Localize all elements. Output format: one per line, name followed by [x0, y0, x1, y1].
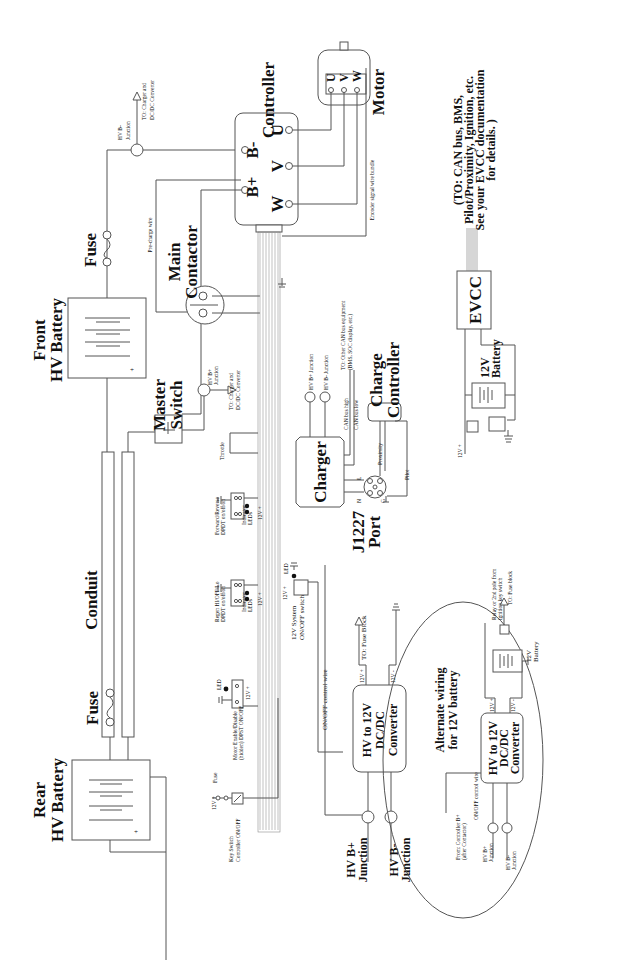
battery-label: Battery — [489, 339, 503, 378]
pin-label: G — [380, 499, 386, 503]
front-hv-battery: + Front HV Battery — [30, 297, 146, 382]
rear-battery-label-2: HV Battery — [48, 757, 67, 842]
switch-label: DPDT on/off/on — [220, 499, 226, 535]
master-switch-label-2: Switch — [167, 380, 186, 430]
voltage-label: 12V + — [282, 586, 288, 600]
control-wire-label: ON/OFF control wire — [473, 772, 479, 820]
motor-label: Motor — [369, 68, 388, 115]
motor: U V W Motor — [318, 42, 388, 115]
to-label: DC/DC Converter — [235, 370, 241, 410]
rear-battery-label-1: Rear — [30, 782, 49, 818]
dcdc-label: Converter — [508, 721, 522, 774]
contactor-label-2: Contactor — [182, 225, 201, 299]
fwd-rev-switch: Forward/Reverse DPDT on/off/on Indicator… — [214, 493, 263, 535]
terminal-w: W — [268, 196, 287, 213]
plus-sign: + — [130, 366, 134, 374]
voltage-label: 12V + — [457, 444, 463, 458]
encoder-label: Encoder signal wire bundle — [369, 159, 375, 220]
system-switch-label: 12V System — [290, 605, 298, 640]
conduit-label: Conduit — [82, 570, 101, 630]
terminal-v: V — [268, 159, 287, 172]
signal-bundle — [258, 232, 286, 832]
junction-label: HV B+ Junction — [308, 354, 314, 390]
plus-sign: + — [134, 828, 138, 836]
regen-switch: Regen HI/OFF/Lo DPDT on/off/on Indicator… — [214, 580, 263, 622]
evcc-note: for details. ) — [484, 119, 498, 180]
can-label: CAN bus high — [343, 398, 349, 430]
voltage-label: 12V + — [359, 669, 365, 683]
charger: Charger HV B+ Junction HV B- Junction CA… — [296, 300, 359, 507]
rear-hv-battery: + Rear HV Battery — [30, 757, 150, 842]
to-label: TO: Charger and — [141, 83, 147, 120]
alternate-title: Alternate wiring — [433, 668, 447, 753]
voltage-label: 12V + — [257, 506, 263, 520]
voltage-label: 12V + — [257, 592, 263, 606]
throttle: Throttle — [219, 433, 258, 460]
voltage-label: 12V - — [510, 699, 516, 712]
dcdc-label: Converter — [386, 703, 400, 756]
to-label: (BMS, SOC display, etc.) — [347, 314, 354, 370]
relay-label: ignition key switch — [497, 578, 503, 620]
led-label: LEDs — [247, 512, 253, 525]
fuse-label: Fuse — [212, 772, 218, 783]
junction-label: Junction — [511, 851, 517, 870]
to-label: DC/DC Converter — [149, 80, 155, 120]
controller: Controller B- B+ U V W — [235, 61, 298, 232]
hv-bminus-junction-top: HV B- Junction TO: Charger and DC/DC Con… — [117, 80, 155, 156]
voltage-label: 12V + — [245, 686, 251, 700]
terminal-u: U — [268, 124, 287, 136]
main-contactor: Main Contactor — [165, 225, 224, 324]
motor-enable-switch: LED 12V + Motor Enable/Disable (hidden) … — [216, 679, 258, 760]
voltage-label: 12V + — [211, 796, 217, 810]
switch-label: DPDT on/off/on — [220, 586, 226, 622]
key-switch-label: Controller ON/OFF — [235, 818, 241, 862]
fuse-label: Fuse — [83, 691, 102, 725]
master-switch: Master Switch — [150, 379, 186, 443]
motor-terminal-u: U — [324, 73, 338, 82]
motor-terminal-v: V — [337, 73, 351, 82]
front-battery-label-2: HV Battery — [47, 297, 66, 382]
junction-label: HV B- — [117, 125, 123, 140]
pilot-label: Pilot — [404, 469, 410, 480]
junction-label: Junction — [356, 837, 370, 882]
led-label: LED — [283, 563, 289, 574]
key-switch: 12V + Fuse Key Switch Controller ON/OFF — [211, 698, 278, 862]
to-label: TO: Other CAN bus equipment — [340, 300, 346, 370]
can-label: CAN bus low — [353, 400, 359, 430]
dcdc-label: HV to 12V — [360, 702, 374, 757]
alternate-title: for 12V battery — [446, 671, 460, 750]
system-onoff-switch: LED 12V + 12V System ON/OFF switch — [282, 563, 343, 752]
proximity-label: Proximity — [377, 443, 383, 465]
junction-label: Junction — [125, 121, 131, 140]
led-label: LEDs — [247, 599, 253, 612]
wiring-diagram: + Front HV Battery Fuse Conduit Master S… — [0, 0, 619, 960]
switch-label: (hidden) DPST ON/OFF — [238, 706, 245, 760]
to-label: TO: Fuse Block — [360, 615, 368, 660]
system-switch-label: ON/OFF switch — [298, 595, 306, 640]
charge-controller: Charge Controller Proximity Pilot — [367, 341, 410, 496]
to-label: TO: Charger and — [228, 373, 234, 410]
junction-label: HV B- Junction — [323, 355, 329, 390]
terminal-bplus: B+ — [243, 176, 262, 197]
junction-label: Junction — [488, 843, 494, 862]
battery-label: Battery — [532, 641, 540, 662]
charger-label: Charger — [311, 441, 330, 503]
pre-charge-label: Pre-charge wire — [147, 217, 153, 252]
from-label: (after Contactor) — [461, 823, 468, 860]
voltage-label: 12V + — [489, 698, 495, 712]
j1227-port: L N G J1227 Port — [344, 476, 389, 553]
junction-label: Junction — [213, 366, 219, 385]
led-label: LED — [216, 679, 222, 690]
pin-label: N — [356, 499, 362, 503]
evcc: EVCC (TO: CAN bus, BMS, Pilot/Proximity,… — [451, 69, 515, 458]
throttle-label: Throttle — [219, 442, 225, 460]
fuse-label: Fuse — [81, 233, 100, 267]
evcc-label: EVCC — [466, 276, 485, 324]
key-switch-label: Key Switch — [228, 836, 234, 862]
j1227-label-2: Port — [365, 516, 384, 548]
charge-controller-label-2: Controller — [384, 341, 403, 418]
dcdc-converter: HV to 12V DC/DC Converter 12V + 12V - TO… — [321, 565, 413, 882]
terminal-bminus: B- — [243, 141, 262, 158]
motor-terminal-w: W — [350, 70, 364, 82]
to-label: TO: Fuse block — [507, 571, 513, 605]
